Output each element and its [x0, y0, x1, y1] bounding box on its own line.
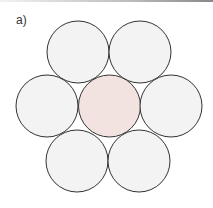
circle-top-right — [109, 21, 171, 83]
circle-bottom-right — [108, 130, 170, 192]
circle-top-left — [47, 21, 109, 83]
circle-right — [140, 75, 202, 137]
circle-bottom-left — [46, 130, 108, 192]
hexagonal-circle-packing-diagram — [0, 0, 213, 208]
circle-left — [16, 75, 78, 137]
circle-center — [79, 75, 141, 137]
